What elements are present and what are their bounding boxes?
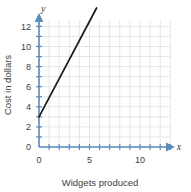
- chart-container: 0510 024681012 y x Widgets produced Cost…: [0, 0, 191, 192]
- y-tick-label: 0: [26, 142, 31, 152]
- x-axis-symbol: x: [176, 141, 182, 152]
- y-axis-tick-labels: 024681012: [21, 22, 31, 153]
- y-tick-label: 2: [26, 122, 31, 132]
- grid-lines: [39, 20, 170, 147]
- y-axis-title: Cost in dollars: [2, 55, 13, 115]
- y-axis-symbol: y: [40, 3, 46, 14]
- y-tick-label: 6: [26, 82, 31, 92]
- x-tick-label: 5: [87, 155, 92, 165]
- y-tick-label: 8: [26, 62, 31, 72]
- axes: [35, 13, 175, 151]
- data-series-line: [39, 8, 97, 117]
- coordinate-plane: 0510 024681012 y x Widgets produced Cost…: [0, 0, 191, 192]
- y-tick-label: 10: [21, 42, 31, 52]
- y-tick-label: 4: [26, 102, 31, 112]
- y-tick-label: 12: [21, 22, 31, 32]
- x-axis-title: Widgets produced: [62, 177, 139, 188]
- cost-line: [39, 8, 97, 117]
- x-axis-tick-labels: 0510: [36, 155, 145, 165]
- x-tick-label: 0: [36, 155, 41, 165]
- x-tick-label: 10: [135, 155, 145, 165]
- y-axis-arrow-icon: [35, 13, 44, 22]
